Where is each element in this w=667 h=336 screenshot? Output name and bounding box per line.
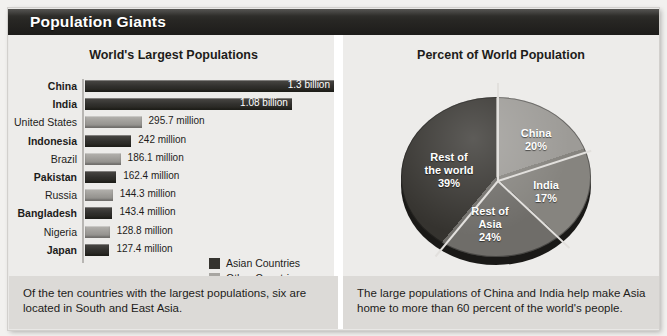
pie-label-line1: India xyxy=(511,179,581,192)
pie-label-percent: 20% xyxy=(501,140,571,153)
bar-row-indonesia: Indonesia242 million xyxy=(9,134,338,148)
bar-row-united-states: United States295.7 million xyxy=(9,115,338,129)
bar-label: Pakistan xyxy=(9,170,77,184)
bar-value-label: 295.7 million xyxy=(149,115,205,127)
bar-row-nigeria: Nigeria128.8 million xyxy=(9,225,338,239)
legend-swatch-asian-icon xyxy=(209,258,220,269)
bar-row-china: China1.3 billion xyxy=(9,79,338,93)
bar xyxy=(85,135,131,147)
bar-row-japan: Japan127.4 million xyxy=(9,243,338,257)
pie-label-line1: Rest of xyxy=(453,205,527,218)
bar-value-label: 144.3 million xyxy=(120,188,176,200)
bar-value-label: 127.4 million xyxy=(116,243,172,255)
bar-label: China xyxy=(9,79,77,93)
pie-label-china: China20% xyxy=(501,127,571,153)
bar-track xyxy=(85,135,131,147)
pie-label-line2: Asia xyxy=(453,218,527,231)
right-caption-band: The large populations of China and India… xyxy=(343,276,659,329)
pie-label-india: India17% xyxy=(511,179,581,205)
bar-track xyxy=(85,244,109,256)
bar-label: India xyxy=(9,97,77,111)
bar-label: Bangladesh xyxy=(9,206,77,220)
bar-label: Russia xyxy=(9,188,77,202)
pie-label-line1: China xyxy=(501,127,571,140)
bar-row-india: India1.08 billion xyxy=(9,97,338,111)
bar-track xyxy=(85,189,113,201)
bar-track xyxy=(85,226,110,238)
bar xyxy=(85,244,109,256)
bar-value-label: 242 million xyxy=(138,134,186,146)
left-panel-title: World's Largest Populations xyxy=(9,48,338,62)
pie-label-percent: 24% xyxy=(453,231,527,244)
legend-item-asian: Asian Countries xyxy=(209,256,339,271)
pie-label-rest-of-world: Rest ofthe world39% xyxy=(407,151,491,190)
bar xyxy=(85,171,116,183)
bar-row-bangladesh: Bangladesh143.4 million xyxy=(9,206,338,220)
right-panel-title: Percent of World Population xyxy=(343,48,659,62)
bar-track xyxy=(85,153,121,165)
bar-row-russia: Russia144.3 million xyxy=(9,188,338,202)
pie-label-percent: 39% xyxy=(407,177,491,190)
left-caption-text: Of the ten countries with the largest po… xyxy=(23,286,326,316)
bar xyxy=(85,116,142,128)
bar xyxy=(85,226,110,238)
bar-label: Nigeria xyxy=(9,225,77,239)
right-caption-text: The large populations of China and India… xyxy=(357,286,647,316)
bar-track xyxy=(85,116,142,128)
bar-row-pakistan: Pakistan162.4 million xyxy=(9,170,338,184)
bar-label: Indonesia xyxy=(9,134,77,148)
bar-label: Japan xyxy=(9,243,77,257)
bar-value-label: 1.08 billion xyxy=(240,97,288,109)
bar xyxy=(85,207,112,219)
pie-separator-0 xyxy=(497,83,499,181)
pie-label-percent: 17% xyxy=(511,192,581,205)
left-caption-band: Of the ten countries with the largest po… xyxy=(9,276,338,329)
bar-value-label: 1.3 billion xyxy=(288,79,330,91)
bar-value-label: 162.4 million xyxy=(123,170,179,182)
banner: Population Giants xyxy=(8,9,659,35)
bar-label: Brazil xyxy=(9,152,77,166)
bar xyxy=(85,153,121,165)
infographic-page: Population Giants World's Largest Popula… xyxy=(0,0,667,336)
legend-label-asian: Asian Countries xyxy=(226,256,300,271)
bar-track xyxy=(85,207,112,219)
bar-label: United States xyxy=(9,115,77,129)
banner-title: Population Giants xyxy=(30,13,166,31)
pie-label-line1: Rest of xyxy=(407,151,491,164)
bar-track xyxy=(85,171,116,183)
bar-value-label: 186.1 million xyxy=(128,152,184,164)
bar-row-brazil: Brazil186.1 million xyxy=(9,152,338,166)
pie-label-line2: the world xyxy=(407,164,491,177)
pie-chart: China20%India17%Rest ofAsia24%Rest ofthe… xyxy=(393,83,603,278)
pie-label-rest-of-asia: Rest ofAsia24% xyxy=(453,205,527,244)
bar-chart: China1.3 billionIndia1.08 billionUnited … xyxy=(9,79,338,269)
bar xyxy=(85,189,113,201)
bar-value-label: 128.8 million xyxy=(117,225,173,237)
bar-value-label: 143.4 million xyxy=(119,206,175,218)
